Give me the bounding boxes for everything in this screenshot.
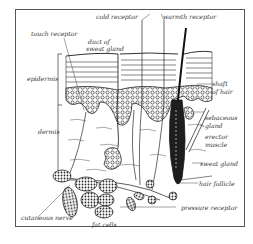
label-touch-receptor: touch receptor <box>31 30 78 37</box>
label-pressure-receptor: pressure receptor <box>181 204 237 211</box>
sweat-gland-coil <box>104 148 121 170</box>
label-hair-follicle: hair follicle <box>199 180 235 187</box>
label-sebaceous-gland-line2: gland <box>205 122 223 129</box>
label-erector-muscle-line1: erector <box>205 133 228 140</box>
label-shaft-of-hair-line2: of hair <box>212 88 233 95</box>
label-fat-cells: fat cells <box>92 221 117 228</box>
label-sweat-gland: sweat gland <box>200 160 238 167</box>
label-warmth-receptor: warmth receptor <box>163 13 216 20</box>
label-duct-of-sweat-gland-line2: sweat gland <box>86 45 124 52</box>
sebaceous-gland <box>184 107 194 119</box>
label-cutaneous-nerve: cutaneous nerve <box>21 214 73 221</box>
label-dermis: dermis <box>38 128 60 135</box>
label-cold-receptor: cold receptor <box>96 13 138 20</box>
hair-follicle <box>169 100 185 184</box>
label-erector-muscle-line2: muscle <box>205 141 227 148</box>
fat-cells <box>53 170 177 218</box>
epidermis-bracket <box>58 54 62 180</box>
label-epidermis: epidermis <box>27 75 58 82</box>
label-duct-of-sweat-gland-line1: duct of <box>88 38 110 45</box>
label-shaft-of-hair-line1: shaft <box>212 80 228 87</box>
label-sebaceous-gland-line1: sebaceous <box>205 114 238 121</box>
diagram-stage: cold receptor warmth receptor touch rece… <box>0 0 253 244</box>
